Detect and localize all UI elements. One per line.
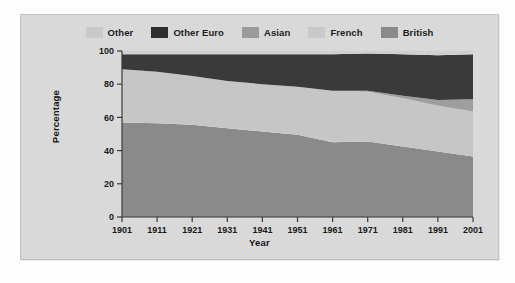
x-tick-label: 1911 [147,225,167,235]
area-chart: 0204060801001901191119211931194119511961… [21,15,498,259]
x-tick-label: 1921 [182,225,202,235]
y-tick-label: 20 [104,179,114,189]
y-tick-label: 0 [109,212,114,222]
x-tick-label: 1951 [287,225,307,235]
y-tick-label: 80 [104,79,114,89]
x-axis-title: Year [21,237,498,248]
chart-card: Other Other Euro Asian French British 02… [20,14,499,260]
x-tick-label: 1961 [323,225,343,235]
x-tick-label: 1901 [112,225,132,235]
x-tick-label: 1971 [358,225,378,235]
y-tick-label: 60 [104,113,114,123]
x-tick-label: 1981 [393,225,413,235]
x-tick-label: 1941 [252,225,272,235]
screenshot-root: Other Other Euro Asian French British 02… [0,0,515,283]
x-tick-label: 2001 [463,225,483,235]
y-tick-label: 100 [99,46,114,56]
x-tick-label: 1991 [428,225,448,235]
plot-area-wrapper: 0204060801001901191119211931194119511961… [21,15,498,259]
x-tick-label: 1931 [217,225,237,235]
y-axis-title: Percentage [50,77,61,157]
y-tick-label: 40 [104,146,114,156]
